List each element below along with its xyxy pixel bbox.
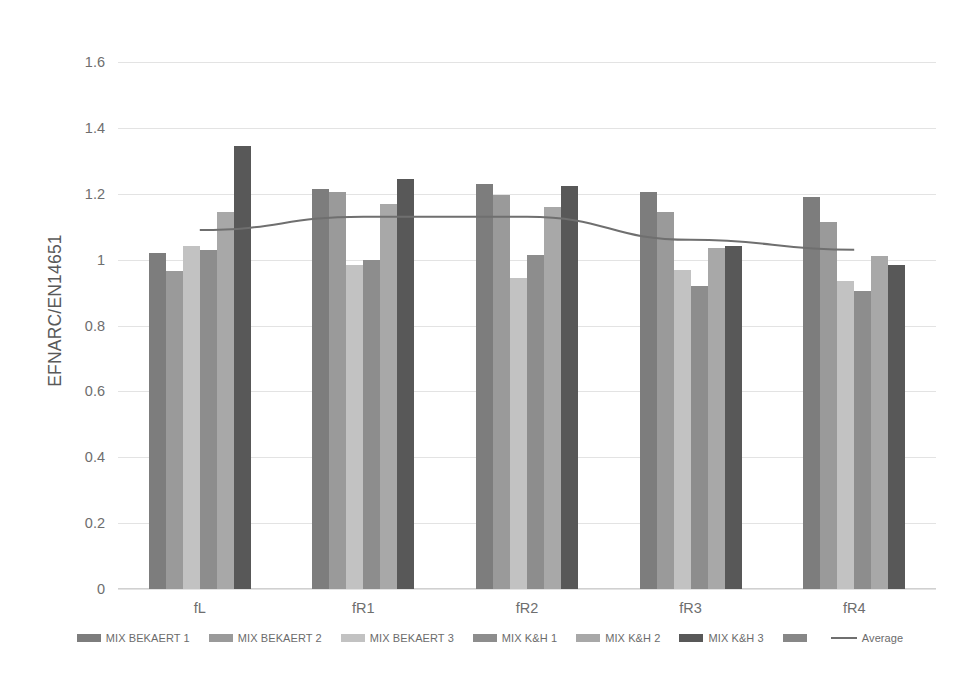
- legend-item-label: MIX K&H 2: [605, 632, 660, 644]
- bar: [166, 271, 183, 589]
- legend-item[interactable]: MIX BEKAERT 3: [341, 632, 454, 644]
- y-axis-tick-label: 1.2: [85, 186, 105, 202]
- bar: [510, 278, 527, 589]
- legend-swatch-icon: [341, 634, 365, 642]
- bar: [837, 281, 854, 589]
- legend-item[interactable]: MIX K&H 1: [473, 632, 557, 644]
- bar: [346, 265, 363, 589]
- bar: [234, 146, 251, 589]
- bar: [183, 246, 200, 589]
- legend-item-label: MIX K&H 3: [708, 632, 763, 644]
- bar-group: fR3: [609, 62, 773, 589]
- legend-item-label: MIX K&H 1: [502, 632, 557, 644]
- bar: [725, 246, 742, 589]
- bar: [820, 222, 837, 589]
- x-axis-tick-label: fR4: [772, 600, 936, 616]
- bar: [527, 255, 544, 589]
- bar-group: fR4: [772, 62, 936, 589]
- gridline: 0: [118, 589, 936, 590]
- y-axis-tick-label: 0.8: [85, 318, 105, 334]
- y-axis-tick-label: 1.4: [85, 120, 105, 136]
- legend-item[interactable]: MIX BEKAERT 1: [77, 632, 190, 644]
- bar: [803, 197, 820, 589]
- x-axis-tick-label: fR3: [609, 600, 773, 616]
- legend-item[interactable]: MIX K&H 2: [576, 632, 660, 644]
- legend-item-label: MIX BEKAERT 2: [238, 632, 322, 644]
- legend-item[interactable]: Average: [831, 632, 903, 644]
- bar: [363, 260, 380, 589]
- bar: [871, 256, 888, 589]
- bar: [329, 192, 346, 589]
- bar: [544, 207, 561, 589]
- bar-group: fR2: [445, 62, 609, 589]
- x-axis-tick-label: fR2: [445, 600, 609, 616]
- x-axis-tick-label: fR1: [282, 600, 446, 616]
- chart-container: EFNARC/EN14651 00.20.40.60.811.21.41.6 f…: [0, 0, 980, 684]
- y-axis-tick-label: 1.6: [85, 54, 105, 70]
- legend-swatch-icon: [679, 634, 703, 642]
- bar: [217, 212, 234, 589]
- bar: [200, 250, 217, 589]
- legend-item[interactable]: MIX BEKAERT 2: [209, 632, 322, 644]
- bar: [476, 184, 493, 589]
- legend-item[interactable]: [783, 634, 812, 642]
- bar: [397, 179, 414, 589]
- bar: [312, 189, 329, 589]
- bar: [674, 270, 691, 589]
- legend-item[interactable]: MIX K&H 3: [679, 632, 763, 644]
- legend-swatch-icon: [576, 634, 600, 642]
- legend-item-label: MIX BEKAERT 3: [370, 632, 454, 644]
- bar-group: fL: [118, 62, 282, 589]
- y-axis-tick-label: 0.2: [85, 515, 105, 531]
- legend-swatch-icon: [783, 634, 807, 642]
- bar: [854, 291, 871, 589]
- bar: [149, 253, 166, 589]
- legend-swatch-icon: [473, 634, 497, 642]
- bar: [493, 195, 510, 589]
- bar-group: fR1: [282, 62, 446, 589]
- bar: [380, 204, 397, 589]
- y-axis-tick-label: 1: [97, 252, 105, 268]
- plot-area: 00.20.40.60.811.21.41.6 fLfR1fR2fR3fR4: [118, 62, 936, 589]
- x-axis-tick-label: fL: [118, 600, 282, 616]
- bar: [657, 212, 674, 589]
- legend-item-label: MIX BEKAERT 1: [106, 632, 190, 644]
- y-axis-tick-label: 0: [97, 581, 105, 597]
- y-axis-tick-label: 0.6: [85, 383, 105, 399]
- bar: [708, 248, 725, 589]
- y-axis-tick-label: 0.4: [85, 449, 105, 465]
- bar: [640, 192, 657, 589]
- bar: [561, 186, 578, 589]
- legend-swatch-icon: [209, 634, 233, 642]
- legend-line-icon: [831, 637, 857, 639]
- legend-item-label: Average: [862, 632, 903, 644]
- bar: [691, 286, 708, 589]
- chart-legend: MIX BEKAERT 1MIX BEKAERT 2MIX BEKAERT 3M…: [0, 632, 980, 644]
- bar: [888, 265, 905, 589]
- y-axis-title: EFNARC/EN14651: [45, 201, 66, 421]
- legend-swatch-icon: [77, 634, 101, 642]
